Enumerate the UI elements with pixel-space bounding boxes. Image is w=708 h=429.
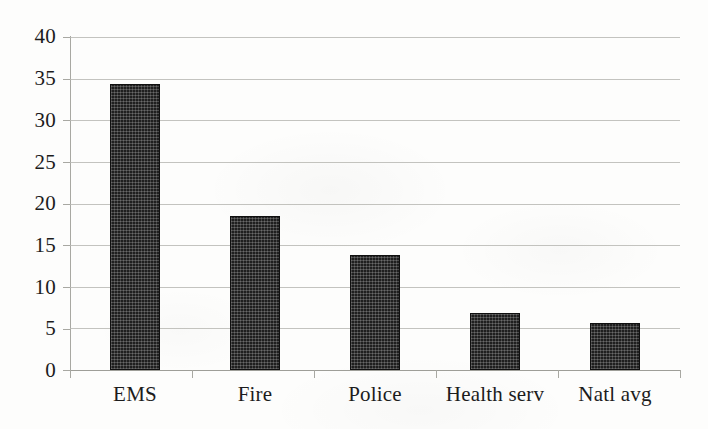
gridline-25 — [70, 162, 680, 163]
y-tick-label-25: 25 — [10, 152, 56, 173]
gridline-35 — [70, 79, 680, 80]
gridline-15 — [70, 245, 680, 246]
x-axis-line — [70, 370, 681, 371]
plot-area — [70, 37, 680, 370]
x-tick-mark-1 — [192, 370, 193, 378]
y-tick-label-35: 35 — [10, 68, 56, 89]
x-tick-mark-start — [70, 370, 71, 378]
bar-chart: 40 35 30 25 20 15 10 5 0 — [0, 0, 708, 429]
bar-health-serv — [470, 313, 520, 370]
y-tick-label-10: 10 — [10, 277, 56, 298]
y-tick-label-20: 20 — [10, 193, 56, 214]
gridline-30 — [70, 120, 680, 121]
bar-police — [350, 255, 400, 370]
bar-fire — [230, 216, 280, 370]
gridline-40 — [70, 37, 680, 38]
bar-natl-avg — [590, 323, 640, 371]
y-tick-label-5: 5 — [10, 318, 56, 339]
x-tick-mark-3 — [436, 370, 437, 378]
x-tick-mark-end — [680, 370, 681, 378]
gridline-20 — [70, 204, 680, 205]
x-tick-mark-4 — [558, 370, 559, 378]
bar-ems — [110, 84, 160, 370]
y-axis-tick-labels: 40 35 30 25 20 15 10 5 0 — [0, 0, 56, 429]
y-tick-label-0: 0 — [10, 360, 56, 381]
y-tick-label-15: 15 — [10, 235, 56, 256]
y-tick-label-30: 30 — [10, 110, 56, 131]
x-tick-mark-2 — [314, 370, 315, 378]
y-tick-label-40: 40 — [10, 26, 56, 47]
x-tick-label-natl-avg: Natl avg — [535, 382, 695, 406]
